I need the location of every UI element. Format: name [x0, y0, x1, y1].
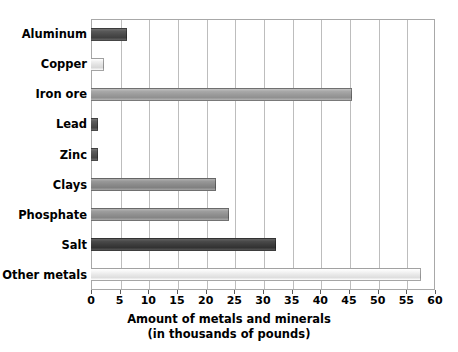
- bar-row: [91, 260, 435, 290]
- category-label-other-metals: Other metals: [0, 269, 87, 281]
- bar-row: [91, 200, 435, 230]
- bar-row: [91, 170, 435, 200]
- bar-row: [91, 79, 435, 109]
- category-label-clays: Clays: [0, 179, 87, 191]
- bar-salt: [91, 238, 276, 251]
- bar-row: [91, 139, 435, 169]
- x-axis-title: Amount of metals and minerals: [0, 312, 458, 327]
- category-label-aluminum: Aluminum: [0, 28, 87, 40]
- category-label-copper: Copper: [0, 58, 87, 70]
- bar-aluminum: [91, 28, 127, 41]
- bar-row: [91, 109, 435, 139]
- bar-phosphate: [91, 208, 229, 221]
- tick-label-60: 60: [418, 295, 452, 307]
- bar-chart: AluminumCopperIron oreLeadZincClaysPhosp…: [0, 0, 458, 352]
- category-label-zinc: Zinc: [0, 149, 87, 161]
- bar-lead: [91, 118, 98, 131]
- bar-row: [91, 49, 435, 79]
- bar-clays: [91, 178, 216, 191]
- category-label-lead: Lead: [0, 118, 87, 130]
- bar-iron-ore: [91, 88, 352, 101]
- bar-row: [91, 19, 435, 49]
- category-label-iron-ore: Iron ore: [0, 88, 87, 100]
- category-label-salt: Salt: [0, 239, 87, 251]
- bar-row: [91, 230, 435, 260]
- x-axis-subtitle: (in thousands of pounds): [0, 327, 458, 342]
- bar-copper: [91, 58, 104, 71]
- bar-other-metals: [91, 268, 421, 281]
- bar-zinc: [91, 148, 98, 161]
- category-label-phosphate: Phosphate: [0, 209, 87, 221]
